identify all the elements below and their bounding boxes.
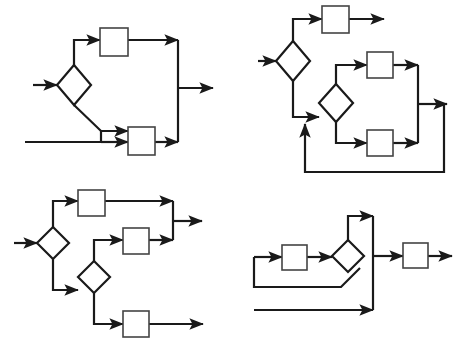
- process-2[interactable]: [128, 127, 155, 155]
- process-1[interactable]: [100, 28, 128, 56]
- process-2[interactable]: [123, 228, 149, 254]
- process-1[interactable]: [282, 245, 307, 270]
- canvas-background: [0, 0, 464, 347]
- process-2[interactable]: [403, 243, 428, 268]
- process-1[interactable]: [322, 6, 349, 33]
- flowchart-canvas: [0, 0, 464, 347]
- process-1[interactable]: [78, 190, 105, 216]
- process-3[interactable]: [123, 311, 149, 337]
- process-2[interactable]: [367, 52, 393, 78]
- process-3[interactable]: [367, 130, 393, 156]
